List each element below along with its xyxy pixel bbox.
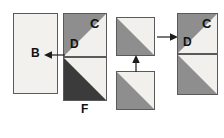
label-b: B	[31, 47, 40, 59]
block-f-square	[63, 57, 107, 101]
arrow-left-icon	[44, 50, 66, 60]
label-d: D	[70, 38, 79, 50]
diagram-canvas: B C D F C	[0, 0, 224, 138]
block-bottom-right-square	[177, 54, 218, 95]
label-c2: C	[202, 17, 211, 30]
texture-overlay	[64, 58, 106, 100]
texture-overlay	[117, 72, 154, 109]
texture-overlay	[178, 55, 217, 94]
label-d2: D	[183, 36, 192, 48]
block-source-bottom-square	[116, 71, 155, 110]
label-c: C	[90, 17, 99, 30]
arrow-up-icon	[131, 55, 141, 72]
label-f: F	[81, 103, 88, 115]
block-source-top-square	[116, 17, 155, 56]
arrow-right-icon	[157, 32, 178, 42]
texture-overlay	[117, 18, 154, 55]
